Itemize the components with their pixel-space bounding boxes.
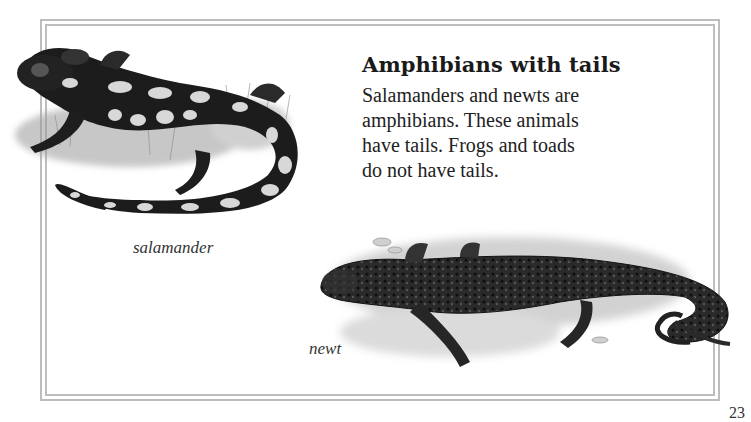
body-line: amphibians. These animals — [362, 108, 662, 133]
page-heading: Amphibians with tails — [362, 52, 621, 77]
salamander-caption: salamander — [133, 238, 213, 258]
salamander-illustration — [0, 35, 320, 230]
body-line: do not have tails. — [362, 158, 662, 183]
body-paragraph: Salamanders and newts are amphibians. Th… — [362, 83, 662, 183]
newt-illustration — [310, 222, 751, 372]
newt-caption: newt — [309, 339, 341, 359]
body-line: Salamanders and newts are — [362, 83, 662, 108]
page-number: 23 — [729, 404, 745, 422]
body-line: have tails. Frogs and toads — [362, 133, 662, 158]
